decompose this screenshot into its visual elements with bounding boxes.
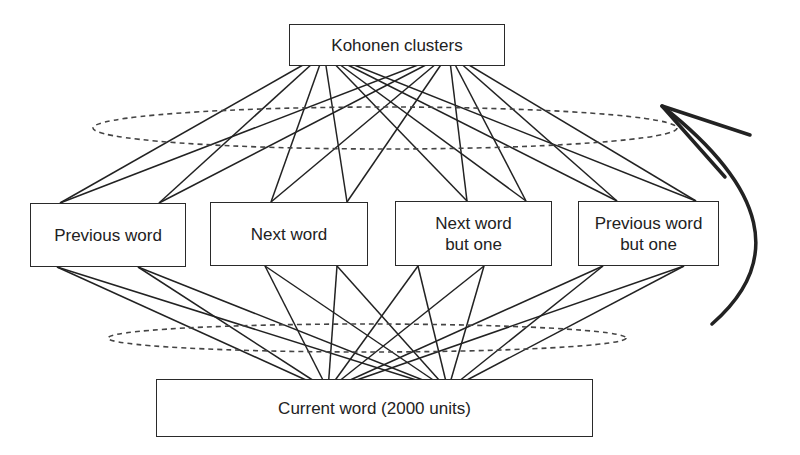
upper-group-ellipse	[93, 107, 677, 149]
lower-connections	[57, 266, 684, 390]
connection-line	[448, 266, 603, 390]
upper-connections	[60, 53, 696, 203]
previous-word-box: Previous word	[30, 203, 186, 267]
connection-line	[159, 53, 324, 203]
connection-line	[60, 53, 449, 203]
connection-line	[324, 53, 526, 201]
previous-word-but-one-box: Previous word but one	[578, 201, 719, 266]
kohonen-clusters-label: Kohonen clusters	[331, 35, 462, 56]
connection-line	[60, 53, 324, 203]
connection-line	[324, 53, 467, 201]
connection-line	[328, 266, 418, 390]
connection-line	[448, 266, 484, 390]
connection-line	[57, 267, 448, 390]
connection-line	[328, 266, 684, 390]
connection-line	[449, 53, 467, 201]
connection-line	[448, 266, 684, 390]
previous-word-label: Previous word	[54, 225, 162, 246]
connection-line	[57, 267, 328, 390]
connection-line	[347, 53, 449, 202]
connection-line	[159, 53, 449, 203]
connection-line	[265, 266, 328, 390]
current-word-box: Current word (2000 units)	[156, 379, 593, 437]
connection-line	[337, 266, 448, 390]
next-word-but-one-label-line1: Next word	[435, 213, 512, 234]
connection-line	[418, 266, 448, 390]
next-word-but-one-box: Next word but one	[395, 201, 552, 266]
connection-line	[449, 53, 617, 201]
connection-line	[328, 266, 337, 390]
connection-line	[324, 53, 347, 202]
current-word-label: Current word (2000 units)	[278, 398, 471, 419]
kohonen-clusters-box: Kohonen clusters	[289, 24, 505, 66]
previous-word-but-one-label-line1: Previous word	[595, 213, 703, 234]
connection-line	[328, 266, 484, 390]
previous-word-but-one-label-line2: but one	[595, 234, 703, 255]
next-word-label: Next word	[251, 224, 328, 245]
connection-line	[324, 53, 696, 201]
next-word-but-one-label-line2: but one	[435, 234, 512, 255]
next-word-box: Next word	[210, 202, 368, 266]
